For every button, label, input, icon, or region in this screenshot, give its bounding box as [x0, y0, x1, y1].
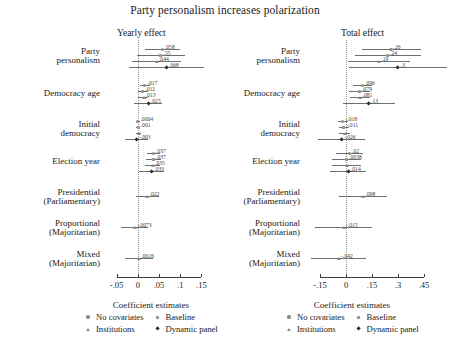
diamond-marker — [164, 65, 169, 70]
x-axis-tick-label: .3 — [395, 280, 401, 290]
category-label: Proportional(Majoritarian) — [249, 219, 300, 238]
square-marker — [141, 90, 144, 93]
category-label: Proportional(Majoritarian) — [49, 219, 100, 238]
point-value-label: .13 — [371, 98, 378, 104]
category-label: Democracy age — [244, 89, 300, 98]
legend-item-label: Dynamic panel — [366, 324, 418, 334]
point-value-label: .0038 — [349, 154, 362, 160]
square-marker — [345, 158, 348, 161]
legend-item-label: Institutions — [297, 324, 336, 334]
point-value-label: .022 — [150, 191, 160, 197]
circle-marker — [86, 315, 89, 318]
point-value-label: -.003 — [139, 134, 151, 140]
category-label: Presidential(Parliamentary) — [244, 188, 300, 207]
legend-item[interactable]: Institutions — [285, 324, 344, 334]
legend: Coefficient estimatesNo covariatesBaseli… — [285, 300, 419, 334]
point-value-label: -.011 — [347, 122, 358, 128]
triangle-marker — [345, 164, 349, 167]
legend-item[interactable]: Baseline — [153, 312, 217, 322]
x-axis-tick — [320, 274, 321, 277]
point-value-label: -.0073 — [137, 222, 151, 228]
legend-item[interactable]: Dynamic panel — [354, 324, 418, 334]
circle-marker — [287, 315, 290, 318]
diamond-marker — [146, 101, 151, 106]
x-axis-tick — [180, 274, 181, 277]
point-value-label: .001 — [141, 122, 151, 128]
circle-marker — [152, 152, 155, 155]
x-axis-tick — [117, 274, 118, 277]
diamond-marker — [366, 101, 371, 106]
x-axis-line — [320, 277, 424, 278]
square-marker — [156, 316, 159, 319]
triangle-marker — [86, 328, 90, 331]
legend-item-label: Baseline — [366, 312, 396, 322]
point-value-label: -.015 — [346, 222, 358, 228]
category-label: Partypersonalism — [257, 47, 301, 66]
x-axis-tick-label: .15 — [367, 280, 378, 290]
category-label: Election year — [52, 157, 100, 166]
category-label: Election year — [252, 157, 300, 166]
x-axis-line — [117, 277, 202, 278]
square-marker — [137, 126, 140, 129]
x-axis-tick-label: -.05 — [110, 280, 123, 290]
x-axis-tick — [346, 274, 347, 277]
point-value-label: -.042 — [341, 253, 353, 259]
diamond-marker — [149, 169, 154, 174]
point-value-label: .025 — [151, 98, 161, 104]
point-value-label: .044 — [159, 56, 169, 62]
square-marker — [358, 90, 361, 93]
point-value-label: .014 — [351, 166, 361, 172]
legend-title: Coefficient estimates — [84, 300, 218, 310]
circle-marker — [341, 120, 344, 123]
legend-item[interactable]: No covariates — [285, 312, 344, 322]
legend-item[interactable]: Baseline — [354, 312, 418, 322]
square-marker — [342, 126, 345, 129]
figure-title: Party personalism increases polarization — [0, 4, 450, 16]
point-value-label: .24 — [390, 50, 397, 56]
point-value-label: .068 — [169, 62, 179, 68]
legend-item-label: Institutions — [96, 324, 135, 334]
category-label: Initialdemocracy — [261, 120, 300, 139]
panel-title: Yearly effect — [117, 28, 166, 38]
x-axis-tick-label: -.15 — [313, 280, 326, 290]
category-label: Mixed(Majoritarian) — [49, 250, 100, 269]
point-value-label: .19 — [381, 56, 388, 62]
diamond-marker — [155, 327, 160, 332]
category-label: Mixed(Majoritarian) — [249, 250, 300, 269]
diamond-marker — [346, 169, 351, 174]
x-axis-tick-label: .45 — [419, 280, 430, 290]
point-value-label: .0026 — [141, 253, 154, 259]
x-axis-tick-label: 0 — [344, 280, 348, 290]
diamond-marker — [339, 137, 344, 142]
category-label: Presidential(Parliamentary) — [44, 188, 100, 207]
legend-item-label: No covariates — [96, 312, 143, 322]
category-label: Democracy age — [44, 89, 100, 98]
point-value-label: .098 — [365, 191, 375, 197]
legend-item-label: Dynamic panel — [165, 324, 217, 334]
legend-item[interactable]: Dynamic panel — [153, 324, 217, 334]
legend-item-label: Baseline — [165, 312, 195, 322]
category-label: Partypersonalism — [57, 47, 101, 66]
x-axis-tick — [138, 274, 139, 277]
x-axis-tick — [201, 274, 202, 277]
point-value-label: .3 — [401, 62, 405, 68]
square-marker — [357, 316, 360, 319]
legend: Coefficient estimatesNo covariatesBaseli… — [84, 300, 218, 334]
x-axis-tick-label: .1 — [177, 280, 183, 290]
x-axis-tick-label: .15 — [196, 280, 207, 290]
zero-reference-line — [138, 40, 140, 277]
legend-title: Coefficient estimates — [285, 300, 419, 310]
x-axis-tick-label: .05 — [154, 280, 165, 290]
point-value-label: -.026 — [344, 134, 356, 140]
x-axis-tick — [424, 274, 425, 277]
category-label: Initialdemocracy — [61, 120, 100, 139]
x-axis-tick — [159, 274, 160, 277]
legend-item[interactable]: Institutions — [84, 324, 143, 334]
legend-item-label: No covariates — [297, 312, 344, 322]
diamond-marker — [356, 327, 361, 332]
figure-root: Party personalism increases polarization… — [0, 0, 450, 360]
diamond-marker — [396, 65, 401, 70]
point-value-label: .033 — [154, 166, 164, 172]
legend-item[interactable]: No covariates — [84, 312, 143, 322]
x-axis-tick — [398, 274, 399, 277]
